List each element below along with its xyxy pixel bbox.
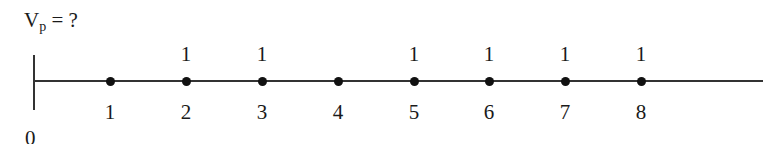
title-main: V xyxy=(24,8,39,32)
timeline-dot xyxy=(106,77,115,86)
point-value-label: 1 xyxy=(181,42,192,66)
timeline-dot xyxy=(485,77,494,86)
timeline-axis xyxy=(34,80,763,82)
point-index-label: 8 xyxy=(636,100,647,124)
point-index-label: 2 xyxy=(181,100,192,124)
point-index-label: 3 xyxy=(257,100,268,124)
diagram-title: Vp = ? xyxy=(24,8,78,39)
point-value-label: 1 xyxy=(560,42,571,66)
point-index-label: 5 xyxy=(409,100,420,124)
point-index-label: 4 xyxy=(333,100,344,124)
point-value-label: 1 xyxy=(636,42,647,66)
title-rest: = ? xyxy=(46,8,78,32)
timeline-dot xyxy=(258,77,267,86)
point-value-label: 1 xyxy=(257,42,268,66)
timeline-dot xyxy=(561,77,570,86)
point-index-label: 1 xyxy=(105,100,116,124)
point-index-label: 7 xyxy=(560,100,571,124)
point-index-label: 6 xyxy=(484,100,495,124)
point-value-label: 1 xyxy=(484,42,495,66)
timeline-dot xyxy=(410,77,419,86)
origin-tick xyxy=(33,55,35,110)
origin-label: 0 xyxy=(25,126,36,144)
timeline-dot xyxy=(334,77,343,86)
timeline-dot xyxy=(637,77,646,86)
timeline-dot xyxy=(182,77,191,86)
point-value-label: 1 xyxy=(409,42,420,66)
